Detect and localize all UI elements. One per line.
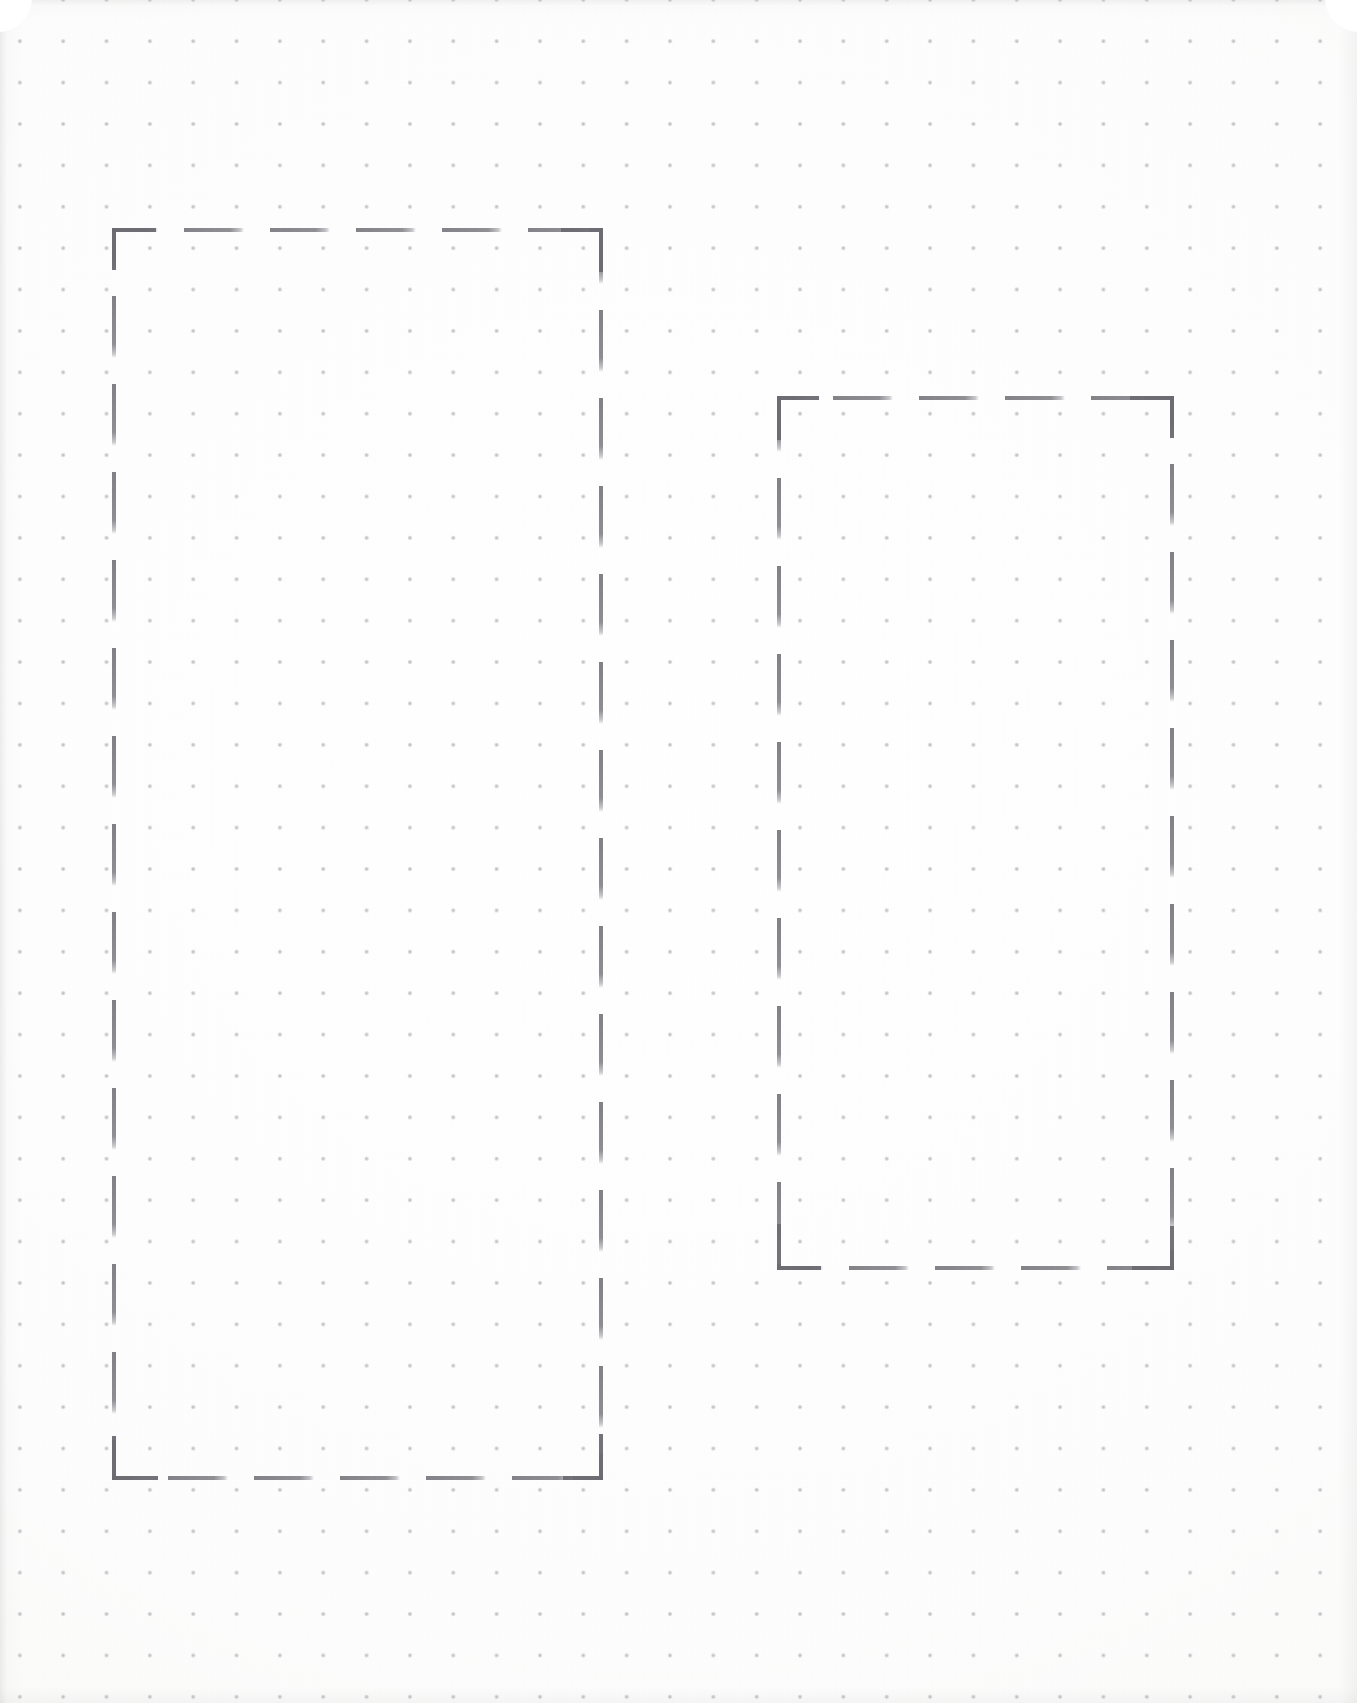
dot-grid-background [0, 0, 1357, 1703]
notebook-page [0, 0, 1357, 1703]
